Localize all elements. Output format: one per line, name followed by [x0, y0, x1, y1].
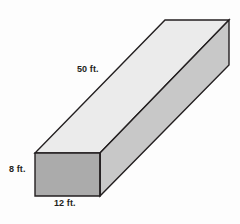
prism-drawing — [0, 0, 240, 224]
height-label: 8 ft. — [9, 164, 26, 175]
length-label: 50 ft. — [77, 64, 99, 75]
front-face — [35, 153, 100, 196]
rectangular-prism-figure: 50 ft. 8 ft. 12 ft. — [0, 0, 240, 224]
width-label: 12 ft. — [54, 198, 76, 209]
